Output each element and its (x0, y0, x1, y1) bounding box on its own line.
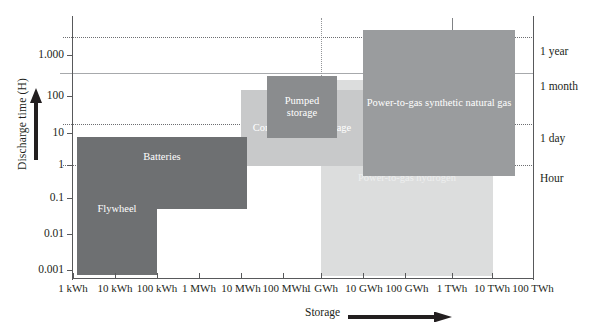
x-tick-label-10kwh: 10 kWh (97, 282, 132, 294)
x-tick-label-10gwh: 10 GWh (345, 282, 383, 294)
right-label-hour: Hour (540, 172, 564, 184)
y-tick-100 (67, 96, 73, 97)
x-tick-100kwh (157, 273, 158, 279)
x-tick-label-100kwh: 100 kWh (137, 282, 178, 294)
y-axis-title: Discharge time (H) (16, 64, 28, 184)
x-tick-1gwh (321, 273, 322, 279)
x-tick-100twh (533, 273, 534, 279)
y-tick-1 (67, 165, 73, 166)
x-tick-label-1twh: 1 TWh (437, 282, 468, 294)
x-tick-label-10twh: 10 TWh (474, 282, 510, 294)
x-tick-label-10mwh: 10 MWh (221, 282, 260, 294)
x-axis-line (72, 278, 534, 279)
y-tick-1000 (67, 55, 73, 56)
block-pumped-storage: Pumped storage (267, 76, 337, 138)
x-tick-10kwh (115, 273, 116, 279)
x-tick-100gwh (405, 273, 406, 279)
x-tick-label-1kwh: 1 kWh (58, 282, 88, 294)
y-tick-0.001 (67, 270, 73, 271)
y-tick-label-0.001: 0.001 (0, 264, 64, 275)
x-tick-label-100twh: 100 TWh (512, 282, 554, 294)
block-power-to-gas-synthetic-natural-gas: Power-to-gas synthetic natural gas (363, 30, 515, 176)
y-tick-0.1 (67, 198, 73, 199)
block-flywheel: Flywheel (77, 176, 157, 275)
y-tick-label-1: 1 (0, 159, 64, 170)
y-tick-label-1000: 1.000 (0, 49, 64, 60)
x-tick-label-100gwh: 100 GWh (385, 282, 428, 294)
right-label-1-day: 1 day (540, 132, 565, 144)
block-label-pumped-storage: Pumped storage (269, 95, 335, 120)
x-tick-label-1gwh: 1 GWh (306, 282, 338, 294)
x-tick-10mwh (241, 273, 242, 279)
right-label-1-month: 1 month (540, 80, 578, 92)
right-axis-line (533, 16, 534, 280)
x-tick-100mwh (283, 273, 284, 279)
x-tick-10twh (492, 273, 493, 279)
x-tick-10gwh (363, 273, 364, 279)
discharge-time-vs-storage-chart: Power-to-gas hydrogen Power-to-gas synth… (0, 0, 596, 335)
y-tick-label-0.01: 0.01 (0, 228, 64, 239)
block-label-power-to-gas-synthetic-natural-gas: Power-to-gas synthetic natural gas (365, 97, 513, 110)
y-axis-arrow-icon (30, 88, 42, 160)
y-tick-0.01 (67, 234, 73, 235)
x-axis-arrow-icon (348, 312, 452, 322)
x-tick-label-100mwh: 100 MWh (263, 282, 308, 294)
x-tick-1kwh (73, 273, 74, 279)
y-tick-label-0.1: 0.1 (0, 192, 64, 203)
y-tick-10 (67, 133, 73, 134)
x-tick-1twh (452, 273, 453, 279)
x-tick-label-1mwh: 1 MWh (182, 282, 216, 294)
x-axis-title: Storage (305, 306, 340, 318)
x-tick-1mwh (199, 273, 200, 279)
block-label-batteries: Batteries (79, 151, 245, 164)
block-label-flywheel: Flywheel (79, 203, 155, 216)
right-label-1-year: 1 year (540, 45, 568, 57)
